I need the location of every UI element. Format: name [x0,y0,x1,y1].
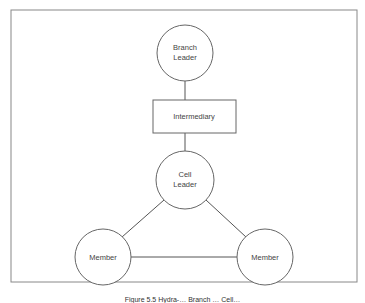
intermediary-label: Intermediary [173,112,215,121]
node-cell-leader: Cell Leader [156,151,214,209]
node-intermediary: Intermediary [153,100,236,133]
figure-caption: Figure 5.5 Hydra-… Branch … Cell… [0,296,365,303]
cell-leader-label-2: Leader [173,180,197,189]
node-branch-leader: Branch Leader [157,25,213,81]
node-member-right: Member [237,229,293,285]
node-member-left: Member [75,229,131,285]
member-right-label: Member [251,253,279,262]
cell-leader-label-1: Cell [179,170,192,179]
edge-cell-to-member-left [122,200,164,237]
branch-leader-label-2: Leader [173,53,197,62]
member-left-label: Member [89,253,117,262]
edge-cell-to-member-right [206,200,246,237]
branch-leader-label-1: Branch [173,43,197,52]
